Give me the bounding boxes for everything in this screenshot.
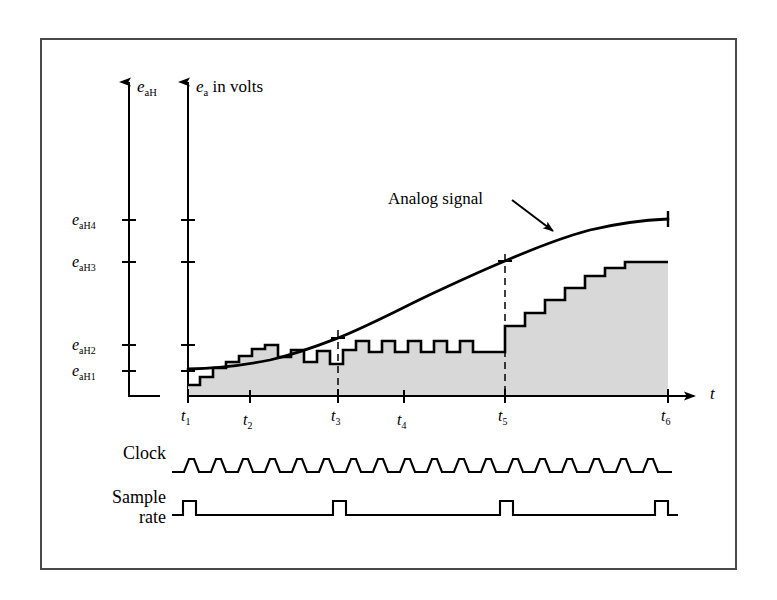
y-tick-label-eaH4: eaH4 [72,212,96,228]
x-axis-label: t [710,385,715,402]
x-tick-label-t4: t4 [397,412,406,428]
x-tick-sub-t5: 5 [502,416,507,427]
y-left-axis-sub: aH [145,87,157,98]
y-left-axis-label: eaH [137,78,157,95]
y-tick-sub-eaH1: aH1 [79,371,96,382]
sample-rate-label-line1: Sample [72,487,166,507]
analog-signal-leader-arrow [512,200,553,231]
x-tick-sub-t3: 3 [335,416,340,427]
y-right-axis-var: e [196,77,204,96]
y-tick-label-eaH2: eaH2 [72,337,96,353]
quantized-staircase-fill [188,262,668,395]
x-tick-label-t5: t5 [498,408,507,424]
y-tick-sub-eaH3: aH3 [79,262,96,273]
y-right-axis [181,82,195,396]
y-left-axis-var: e [137,77,145,96]
y-tick-label-eaH3: eaH3 [72,254,96,270]
x-tick-sub-t2: 2 [247,420,252,431]
x-tick-label-t3: t3 [331,408,340,424]
analog-signal-label: Analog signal [388,190,483,207]
y-tick-sub-eaH4: aH4 [79,220,96,231]
y-tick-label-eaH1: eaH1 [72,363,96,379]
x-tick-sub-t4: 4 [401,420,406,431]
clock-waveform [172,459,672,472]
clock-row-label: Clock [78,444,166,462]
x-tick-label-t2: t2 [243,412,252,428]
y-right-axis-label: ea in volts [196,78,263,95]
x-tick-sub-t6: 6 [665,416,670,427]
sample-rate-waveform [172,501,678,515]
x-tick-sub-t1: 1 [185,416,190,427]
sample-rate-row-label: Sample rate [72,487,166,527]
clock-row-label-text: Clock [123,443,166,463]
x-tick-label-t6: t6 [661,408,670,424]
y-left-axis [122,82,160,396]
sample-rate-label-line2: rate [72,507,166,527]
x-axis-var: t [710,384,715,403]
y-tick-sub-eaH2: aH2 [79,345,96,356]
y-right-axis-units: in volts [208,77,263,96]
x-tick-label-t1: t1 [181,408,190,424]
figure-frame: eaH ea in volts eaH4 eaH3 eaH2 eaH1 t1 t… [40,38,737,570]
